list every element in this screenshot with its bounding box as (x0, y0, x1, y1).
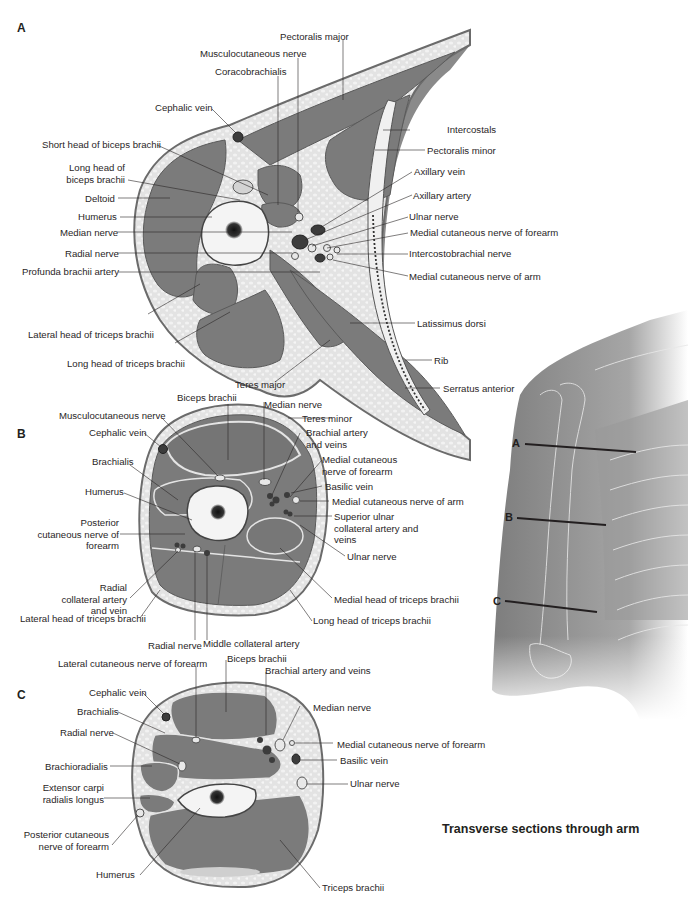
arm-level-c: C (493, 595, 501, 607)
label-a-lateral-head-triceps: Lateral head of triceps brachii (28, 329, 154, 341)
label-a-medial-cutaneous-nerve-arm: Medial cutaneous nerve of arm (409, 271, 541, 283)
label-b-ulnar-nerve: Ulnar nerve (347, 551, 397, 563)
label-b-radial-collateral-artery-vein: Radial collateral artery and vein (60, 582, 127, 617)
label-brachioradialis: Brachioradialis (45, 761, 108, 773)
label-b-radial-nerve: Radial nerve (148, 640, 202, 652)
label-rib: Rib (434, 355, 448, 367)
label-c-biceps-brachii: Biceps brachii (227, 653, 287, 665)
label-intercostals: Intercostals (447, 124, 496, 136)
label-b-biceps-brachii: Biceps brachii (177, 392, 237, 404)
label-b-musculocutaneous-nerve: Musculocutaneous nerve (59, 410, 166, 422)
label-superior-ulnar-collateral: Superior ulnar collateral artery and vei… (334, 511, 434, 546)
label-b-cephalic-vein: Cephalic vein (89, 427, 147, 439)
label-long-head-biceps: Long head of biceps brachii (62, 162, 125, 185)
label-teres-minor: Teres minor (302, 413, 352, 425)
label-c-median-nerve: Median nerve (313, 702, 371, 714)
label-teres-major: Teres major (235, 379, 285, 391)
label-a-humerus: Humerus (78, 211, 117, 223)
label-deltoid: Deltoid (85, 193, 115, 205)
section-a-letter: A (17, 21, 26, 35)
label-middle-collateral-artery: Middle collateral artery (203, 638, 300, 650)
section-b-letter: B (17, 427, 26, 441)
arm-level-b: B (505, 511, 513, 523)
label-b-medial-cutaneous-nerve-forearm: Medial cutaneous nerve of forearm (322, 454, 400, 477)
section-a-diagram (117, 30, 470, 460)
arm-level-a: A (512, 437, 520, 449)
section-c-letter: C (17, 688, 26, 702)
label-pectoralis-major: Pectoralis major (280, 31, 349, 43)
label-c-radial-nerve: Radial nerve (60, 727, 114, 739)
label-b-long-head-triceps: Long head of triceps brachii (313, 615, 431, 627)
label-a-median-nerve: Median nerve (60, 227, 118, 239)
label-b-basilic-vein: Basilic vein (325, 481, 373, 493)
label-b-brachialis: Brachialis (92, 456, 134, 468)
label-axillary-vein: Axillary vein (414, 166, 465, 178)
figure-caption: Transverse sections through arm (442, 822, 639, 836)
label-extensor-carpi-radialis-longus: Extensor carpi radialis longus (42, 782, 104, 805)
label-a-ulnar-nerve: Ulnar nerve (409, 211, 459, 223)
label-c-cephalic-vein: Cephalic vein (89, 687, 147, 699)
label-c-posterior-cutaneous-nerve-forearm: Posterior cutaneous nerve of forearm (23, 829, 109, 852)
label-short-head-biceps: Short head of biceps brachii (42, 139, 161, 151)
label-triceps-brachii: Triceps brachii (322, 882, 384, 894)
label-pectoralis-minor: Pectoralis minor (427, 145, 496, 157)
label-a-medial-cutaneous-nerve-forearm: Medial cutaneous nerve of forearm (410, 227, 558, 239)
label-medial-head-triceps: Medial head of triceps brachii (334, 594, 459, 606)
label-lateral-cutaneous-nerve-forearm: Lateral cutaneous nerve of forearm (58, 658, 207, 670)
label-b-medial-cutaneous-nerve-arm: Medial cutaneous nerve of arm (332, 496, 464, 508)
label-a-long-head-triceps: Long head of triceps brachii (67, 358, 185, 370)
label-a-musculocutaneous-nerve: Musculocutaneous nerve (200, 48, 307, 60)
label-a-radial-nerve: Radial nerve (65, 248, 119, 260)
label-c-brachial-artery-veins: Brachial artery and veins (265, 665, 371, 677)
label-c-humerus: Humerus (96, 869, 135, 881)
label-serratus-anterior: Serratus anterior (443, 383, 514, 395)
label-latissimus-dorsi: Latissimus dorsi (417, 318, 486, 330)
label-c-brachialis: Brachialis (77, 706, 119, 718)
label-intercostobrachial-nerve: Intercostobrachial nerve (409, 248, 511, 260)
label-b-lateral-head-triceps: Lateral head of triceps brachii (20, 613, 146, 625)
label-coracobrachialis: Coracobrachialis (215, 66, 286, 78)
label-axillary-artery: Axillary artery (413, 190, 471, 202)
label-c-ulnar-nerve: Ulnar nerve (350, 778, 400, 790)
label-a-cephalic-vein: Cephalic vein (155, 102, 213, 114)
label-b-posterior-cutaneous-nerve-forearm: Posterior cutaneous nerve of forearm (35, 517, 119, 552)
label-c-basilic-vein: Basilic vein (340, 755, 388, 767)
label-b-brachial-artery-veins: Brachial artery and veins (306, 427, 368, 450)
reference-arm-illustration (488, 300, 688, 720)
label-b-humerus: Humerus (85, 486, 124, 498)
label-c-medial-cutaneous-nerve-forearm: Medial cutaneous nerve of forearm (337, 739, 485, 751)
label-b-median-nerve: Median nerve (264, 399, 322, 411)
label-profunda-brachii-artery: Profunda brachii artery (22, 266, 119, 278)
